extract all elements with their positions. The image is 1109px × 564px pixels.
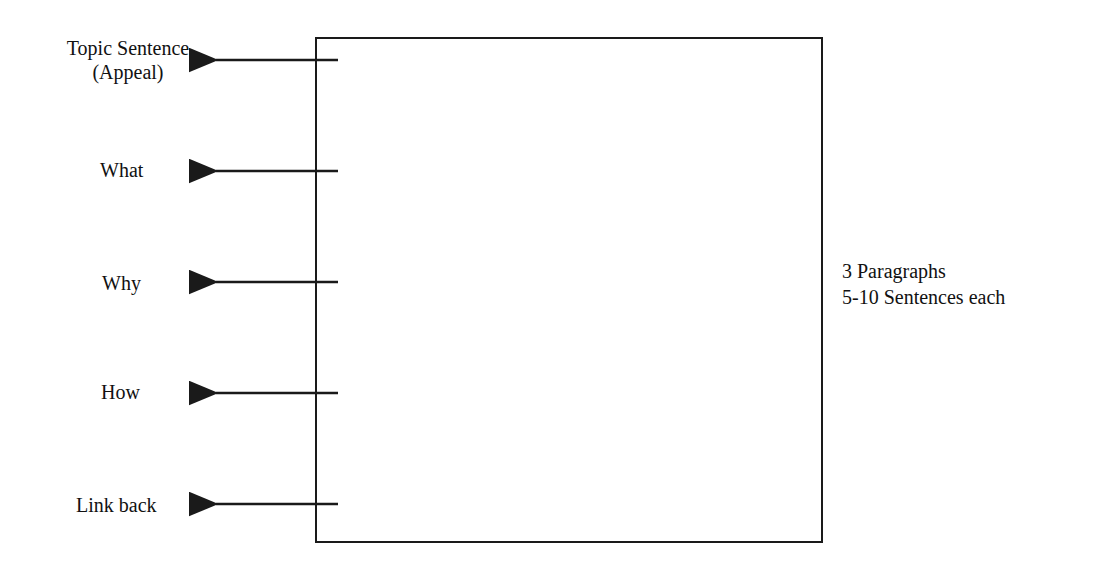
- topic-sentence-text: Topic Sentence: [48, 36, 208, 60]
- link-back-text: Link back: [76, 494, 157, 516]
- paragraph-count-text: 3 Paragraphs: [842, 258, 1005, 284]
- appeal-text: (Appeal): [48, 60, 208, 84]
- what-text: What: [100, 159, 143, 181]
- label-what: What: [100, 158, 143, 182]
- label-topic-sentence: Topic Sentence (Appeal): [48, 36, 208, 84]
- why-text: Why: [102, 272, 141, 294]
- sentence-count-text: 5-10 Sentences each: [842, 284, 1005, 310]
- label-link-back: Link back: [76, 493, 157, 517]
- label-why: Why: [102, 271, 141, 295]
- paragraph-requirements-note: 3 Paragraphs 5-10 Sentences each: [842, 258, 1005, 310]
- how-text: How: [101, 381, 140, 403]
- label-how: How: [101, 380, 140, 404]
